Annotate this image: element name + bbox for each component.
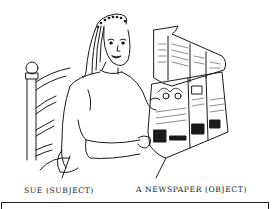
body: [57, 62, 156, 173]
reading-woman-illustration: [0, 0, 275, 209]
subject-pointer: [62, 156, 70, 178]
face: [104, 28, 130, 66]
subject-label: SUE (SUBJECT): [24, 186, 94, 195]
newspaper: [148, 26, 228, 158]
object-label: A NEWSPAPER (OBJECT): [136, 185, 247, 194]
object-pointer: [156, 158, 166, 178]
caption-frame: [1, 202, 269, 209]
